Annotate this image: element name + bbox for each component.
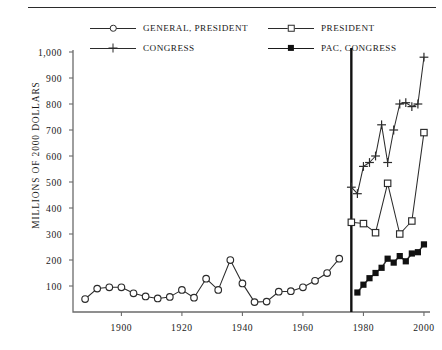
x-tick-label: 1900	[96, 322, 146, 333]
x-tick-label: 1920	[157, 322, 207, 333]
y-tick-label: 400	[20, 203, 62, 214]
y-tick-label: 300	[20, 229, 62, 240]
x-tick-label: 1980	[338, 322, 388, 333]
y-tick-label: 500	[20, 177, 62, 188]
plot-canvas	[0, 0, 442, 350]
y-tick-label: 700	[20, 125, 62, 136]
y-tick-label: 100	[20, 281, 62, 292]
y-tick-label: 900	[20, 73, 62, 84]
y-tick-label: 200	[20, 255, 62, 266]
x-tick-label: 2000	[399, 322, 442, 333]
x-tick-label: 1940	[217, 322, 267, 333]
chart-figure: GENERAL, PRESIDENT PRESIDENT CONGRESS PA…	[0, 0, 442, 350]
plot-area: 1002003004005006007008009001,000 1900192…	[0, 0, 442, 350]
y-tick-label: 800	[20, 99, 62, 110]
x-tick-label: 1960	[278, 322, 328, 333]
y-tick-label: 1,000	[20, 47, 62, 58]
y-tick-label: 600	[20, 151, 62, 162]
